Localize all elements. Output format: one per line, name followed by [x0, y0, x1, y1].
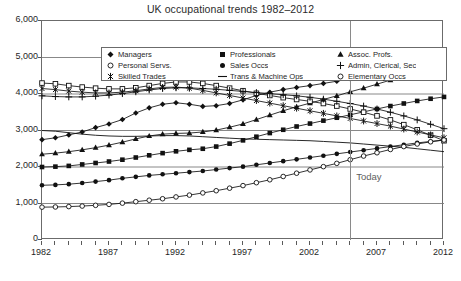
x-axis-tick: [376, 241, 377, 245]
legend-item: Elementary Occs: [336, 72, 452, 81]
x-axis-tick: [68, 241, 69, 245]
filled-diamond-icon: [106, 50, 115, 59]
legend-item: Personal Servs.: [106, 61, 218, 70]
legend-item-label: Elementary Occs: [348, 72, 406, 81]
open-circle-icon: [106, 61, 115, 70]
x-axis-tick: [309, 241, 310, 245]
x-axis-tick: [108, 241, 109, 245]
x-axis-tick: [443, 241, 444, 245]
x-axis-tick: [416, 241, 417, 245]
y-axis-tick-label: 1,000: [0, 197, 38, 207]
x-axis-tick: [242, 241, 243, 245]
x-axis-tick: [269, 241, 270, 245]
y-axis-tick-label: 0: [0, 233, 38, 243]
legend-item: Sales Occs: [218, 61, 336, 70]
x-axis-tick-label: 1987: [98, 247, 118, 257]
x-axis-tick: [54, 241, 55, 245]
legend-item-label: Managers: [118, 50, 152, 59]
x-axis-tick: [215, 241, 216, 245]
x-axis-tick: [363, 241, 364, 245]
legend-item-label: Assoc. Profs.: [348, 50, 393, 59]
plus-star-icon: [336, 61, 345, 70]
asterisk-icon: [106, 72, 115, 81]
x-axis-tick: [95, 241, 96, 245]
x-axis-tick: [202, 241, 203, 245]
x-axis-tick-label: 2007: [366, 247, 386, 257]
x-axis-tick: [255, 241, 256, 245]
x-axis-tick: [389, 241, 390, 245]
legend-item-label: Sales Occs: [230, 61, 268, 70]
y-axis-tick-label: 6,000: [0, 14, 38, 24]
legend-item-label: Admin, Clerical, Sec: [348, 61, 416, 70]
legend-item-label: Skilled Trades: [118, 72, 166, 81]
x-axis-tick: [296, 241, 297, 245]
legend-item: Professionals: [218, 50, 336, 59]
x-axis-tick-label: 2012: [433, 247, 453, 257]
x-axis-tick: [188, 241, 189, 245]
series-elementary-occs: [40, 138, 447, 210]
line-icon: [218, 72, 227, 81]
x-axis-tick: [41, 241, 42, 245]
x-axis-tick-label: 1992: [165, 247, 185, 257]
x-axis-tick: [336, 241, 337, 245]
legend-item: Assoc. Profs.: [336, 50, 452, 59]
legend-item-label: Personal Servs.: [118, 61, 172, 70]
x-axis-tick: [322, 241, 323, 245]
x-axis-tick-label: 2002: [299, 247, 319, 257]
chart-legend: ManagersProfessionalsAssoc. Profs.Person…: [101, 47, 447, 81]
legend-item: Managers: [106, 50, 218, 59]
filled-square-icon: [218, 50, 227, 59]
legend-item: Skilled Trades: [106, 72, 218, 81]
y-axis-tick-label: 5,000: [0, 51, 38, 61]
x-axis-tick: [148, 241, 149, 245]
y-axis-tick-label: 4,000: [0, 87, 38, 97]
x-axis-tick: [175, 241, 176, 245]
legend-item: Trans & Machine Ops: [218, 72, 336, 81]
x-axis-tick-label: 1982: [31, 247, 51, 257]
y-axis: 01,0002,0003,0004,0005,0006,000: [0, 20, 38, 239]
filled-circle-icon: [218, 61, 227, 70]
open-circle-icon: [336, 72, 345, 81]
legend-item-label: Trans & Machine Ops: [230, 72, 303, 81]
legend-item: Admin, Clerical, Sec: [336, 61, 452, 70]
x-axis-tick: [349, 241, 350, 245]
x-axis-tick: [430, 241, 431, 245]
chart-title: UK occupational trends 1982–2012: [0, 3, 461, 15]
y-axis-tick-label: 2,000: [0, 160, 38, 170]
x-axis-tick: [162, 241, 163, 245]
x-axis-tick-label: 1997: [232, 247, 252, 257]
y-axis-tick-label: 3,000: [0, 124, 38, 134]
x-axis-tick: [81, 241, 82, 245]
legend-item-label: Professionals: [230, 50, 276, 59]
plot-area: Today ManagersProfessionalsAssoc. Profs.…: [41, 20, 443, 239]
x-axis-tick: [229, 241, 230, 245]
x-axis-tick: [403, 241, 404, 245]
series-professionals: [40, 95, 447, 170]
x-axis-tick: [282, 241, 283, 245]
x-axis-tick: [121, 241, 122, 245]
x-axis: 1982198719921997200220072012: [41, 241, 443, 261]
figure-caption: [8, 272, 308, 281]
today-annotation-label: Today: [356, 171, 381, 182]
x-axis-tick: [135, 241, 136, 245]
chart-figure: UK occupational trends 1982–2012 01,0002…: [0, 0, 461, 281]
filled-triangle-icon: [336, 50, 345, 59]
